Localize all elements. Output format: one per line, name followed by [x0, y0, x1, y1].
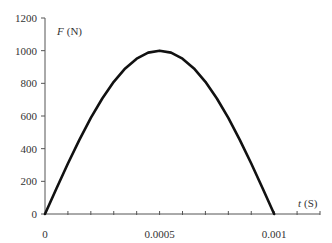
y-tick-label: 600 — [21, 110, 38, 122]
x-tick-label: 0 — [42, 228, 48, 240]
x-tick-label: 0.001 — [262, 228, 287, 240]
y-tick-label: 800 — [21, 77, 38, 89]
y-tick-label: 200 — [21, 175, 38, 187]
y-axis-ticks: 020040060080010001200 — [15, 12, 45, 220]
y-tick-label: 0 — [32, 208, 38, 220]
x-axis-ticks: 00.00050.001 — [42, 211, 320, 240]
x-tick-label: 0.0005 — [144, 228, 175, 240]
y-tick-label: 400 — [21, 143, 38, 155]
y-tick-label: 1000 — [15, 45, 38, 57]
x-axis-title: t(S) — [298, 197, 318, 210]
force-time-chart: 020040060080010001200 00.00050.001 F(N) … — [0, 0, 332, 243]
y-axis-title: F(N) — [56, 25, 82, 38]
force-curve — [45, 51, 274, 214]
y-tick-label: 1200 — [15, 12, 38, 24]
